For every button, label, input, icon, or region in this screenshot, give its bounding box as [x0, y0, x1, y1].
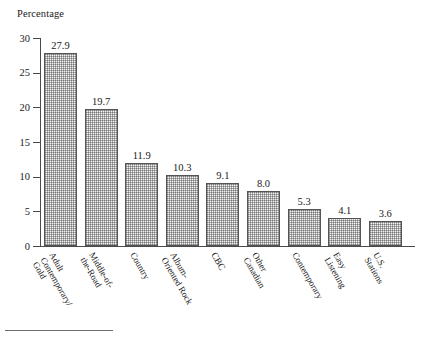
y-axis-tick-label: 20: [20, 102, 31, 114]
bar-chart-figure: Percentage 051015202530 27.919.711.910.3…: [0, 0, 430, 343]
bar-value-label: 5.3: [298, 196, 311, 208]
y-axis-tick-label: 0: [25, 241, 30, 253]
bar-value-label: 3.6: [379, 208, 392, 220]
x-axis-category-label: Country: [127, 251, 150, 281]
y-axis-tick: 20: [33, 107, 40, 108]
y-axis-tick-label: 5: [25, 206, 30, 218]
x-axis-line: [40, 246, 415, 247]
category-label-line: CBC: [209, 251, 227, 272]
bar: 11.9: [125, 163, 158, 246]
y-axis-tick: 15: [33, 142, 40, 143]
bar-value-label: 10.3: [173, 162, 191, 174]
x-axis-category-label: Contemporary: [290, 251, 324, 301]
bar: 19.7: [85, 109, 118, 246]
y-axis-line: [40, 38, 41, 247]
bar: 3.6: [369, 221, 402, 246]
x-axis-category-label: U.S.Stations: [363, 251, 394, 286]
x-axis-category-label: CBC: [209, 251, 227, 272]
bar-value-label: 8.0: [257, 178, 270, 190]
y-axis-tick-label: 15: [20, 137, 31, 149]
x-axis-category-label: EasyListening: [322, 251, 355, 290]
y-axis-tick: 10: [33, 177, 40, 178]
bar-value-label: 9.1: [216, 170, 229, 182]
y-axis-tick-label: 30: [20, 33, 31, 45]
y-axis-tick: 5: [33, 211, 40, 212]
plot-area: 051015202530 27.919.711.910.39.18.05.34.…: [0, 0, 430, 343]
bar: 27.9: [44, 53, 77, 246]
bar: 4.1: [328, 218, 361, 246]
bar-value-label: 27.9: [51, 40, 69, 52]
x-axis-category-label: AdultContemporary/Gold: [30, 251, 82, 312]
footer-rule: [5, 330, 113, 331]
bar: 8.0: [247, 191, 280, 246]
bar: 10.3: [166, 175, 199, 246]
bar-value-label: 19.7: [92, 96, 110, 108]
category-label-line: Country: [127, 251, 150, 281]
y-axis-tick: 0: [33, 246, 40, 247]
y-axis-tick-label: 25: [20, 67, 31, 79]
y-axis-tick: 25: [33, 73, 40, 74]
category-label-line: Contemporary: [290, 251, 324, 301]
bar-value-label: 4.1: [338, 205, 351, 217]
bar: 9.1: [206, 183, 239, 246]
bar: 5.3: [288, 209, 321, 246]
x-axis-category-label: Album-Oriented Rock: [160, 251, 203, 306]
x-axis-category-label: Middle-of-the-Road: [79, 251, 115, 295]
y-axis-tick-label: 10: [20, 171, 31, 183]
y-axis-tick: 30: [33, 38, 40, 39]
x-axis-category-label: OtherCanadian: [241, 251, 274, 290]
bar-value-label: 11.9: [133, 150, 151, 162]
